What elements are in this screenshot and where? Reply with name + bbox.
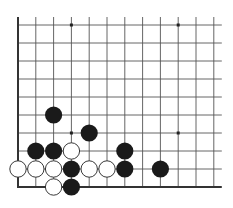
star-point-icon — [70, 24, 73, 27]
black-stone — [116, 160, 133, 177]
black-stone — [116, 142, 133, 159]
black-stone — [63, 160, 80, 177]
white-stone — [28, 161, 44, 177]
white-stone — [99, 161, 115, 177]
black-stone — [45, 106, 62, 123]
black-stone — [152, 160, 169, 177]
black-stone — [27, 142, 44, 159]
go-board — [0, 0, 233, 208]
white-stone — [63, 143, 79, 159]
black-stone — [45, 142, 62, 159]
white-stone — [10, 161, 26, 177]
grid-lines — [18, 17, 222, 187]
black-stone — [81, 124, 98, 141]
star-point-icon — [177, 24, 180, 27]
black-stone — [63, 178, 80, 195]
star-point-icon — [70, 132, 73, 135]
star-point-icon — [177, 132, 180, 135]
white-stone — [45, 161, 61, 177]
white-stone — [45, 179, 61, 195]
white-stone — [81, 161, 97, 177]
